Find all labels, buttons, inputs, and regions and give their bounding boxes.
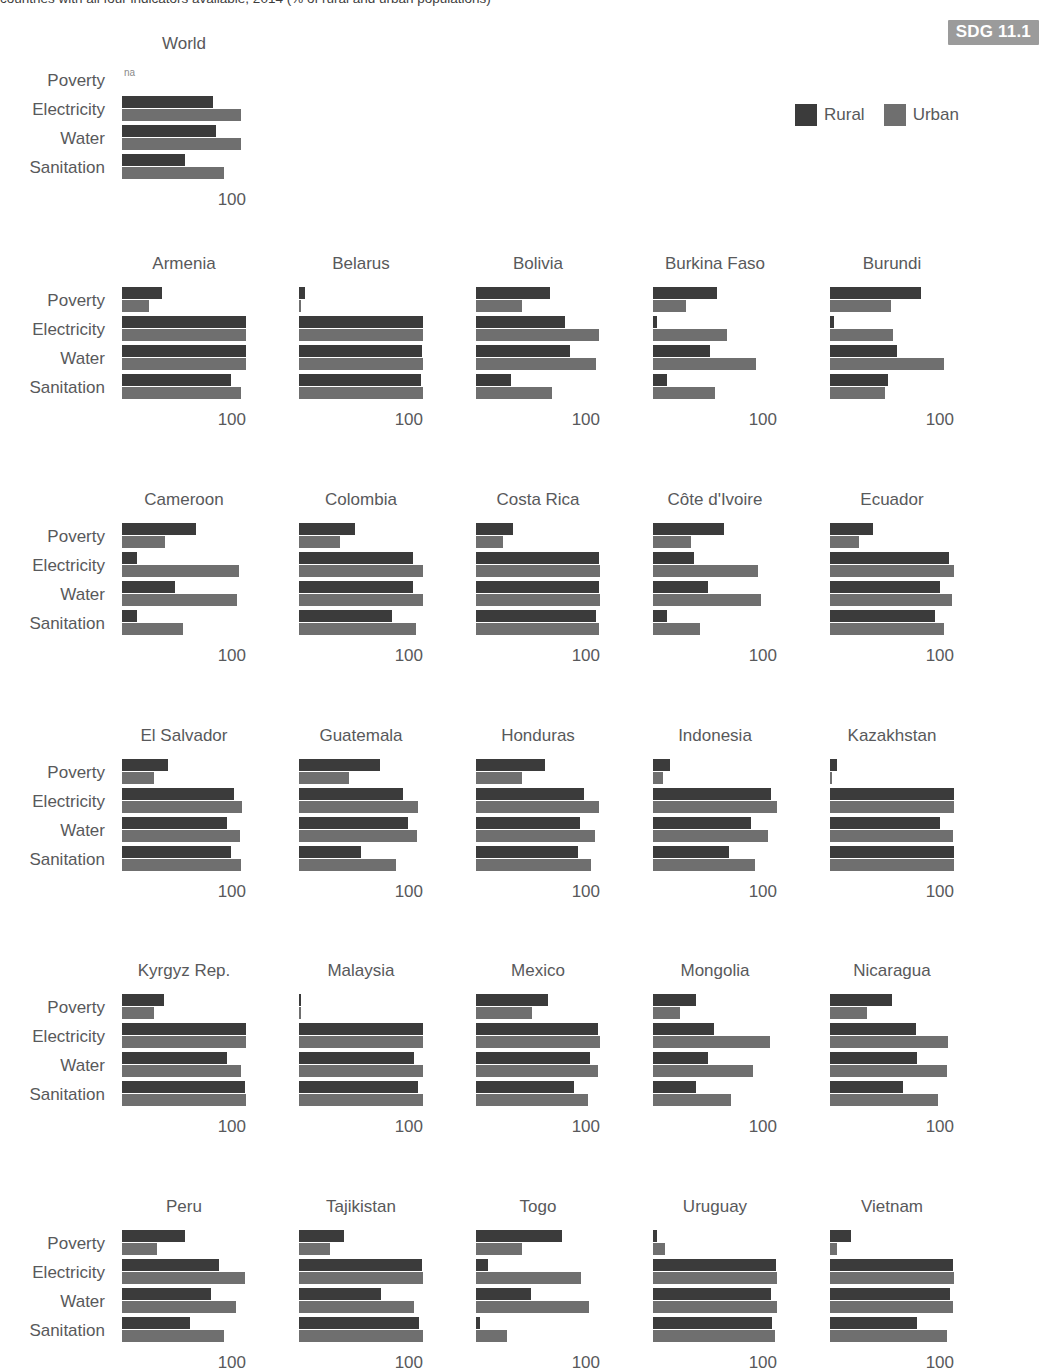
bar-rural-water xyxy=(830,581,940,593)
bar-group-electricity xyxy=(476,551,600,580)
panel-title-burundi: Burundi xyxy=(830,254,954,274)
bar-rural-poverty xyxy=(122,994,164,1006)
bar-group-water xyxy=(653,580,777,609)
bar-urban-water xyxy=(476,594,600,606)
bar-urban-poverty xyxy=(653,536,691,548)
panel-title-ecuador: Ecuador xyxy=(830,490,954,510)
bar-group-poverty xyxy=(476,1229,600,1258)
bar-urban-poverty xyxy=(122,1007,154,1019)
bar-rural-poverty xyxy=(653,994,696,1006)
bar-group-poverty xyxy=(653,522,777,551)
bar-group-electricity xyxy=(653,315,777,344)
bar-urban-water xyxy=(830,1301,953,1313)
axis-tick-100: 100 xyxy=(830,1117,954,1137)
axis-tick-100: 100 xyxy=(830,646,954,666)
na-marker: na xyxy=(124,67,135,78)
bar-urban-poverty xyxy=(653,772,663,784)
chart-legend: Rural Urban xyxy=(795,104,971,126)
indicator-label-poverty: Poverty xyxy=(0,522,105,551)
bar-rural-sanitation xyxy=(653,1081,696,1093)
bar-rural-water xyxy=(299,817,408,829)
bar-urban-electricity xyxy=(830,1272,954,1284)
bar-urban-water xyxy=(830,594,952,606)
bar-rural-sanitation xyxy=(122,1081,245,1093)
axis-tick-100: 100 xyxy=(122,190,246,210)
bar-urban-water xyxy=(299,594,423,606)
axis-tick-100: 100 xyxy=(299,410,423,430)
panel-title-cameroon: Cameroon xyxy=(122,490,246,510)
bar-rural-sanitation xyxy=(122,1317,190,1329)
bar-group-water xyxy=(122,344,246,373)
bar-rural-water xyxy=(476,1288,531,1300)
bar-rural-poverty xyxy=(476,994,548,1006)
bar-rural-water xyxy=(476,817,580,829)
bar-urban-sanitation xyxy=(830,859,954,871)
bar-group-poverty xyxy=(299,1229,423,1258)
indicator-label-poverty: Poverty xyxy=(0,758,105,787)
axis-tick-100: 100 xyxy=(476,1353,600,1371)
bar-rural-poverty xyxy=(830,759,837,771)
bar-rural-electricity xyxy=(299,316,423,328)
bar-group-electricity xyxy=(122,315,246,344)
bar-rural-sanitation xyxy=(653,846,729,858)
bar-rural-electricity xyxy=(653,1259,776,1271)
bar-urban-electricity xyxy=(653,1272,777,1284)
axis-tick-100: 100 xyxy=(122,646,246,666)
bar-rural-poverty xyxy=(299,287,305,299)
bar-urban-poverty xyxy=(299,300,301,312)
bar-rural-electricity xyxy=(476,1023,598,1035)
bar-group-poverty xyxy=(476,286,600,315)
bar-group-water xyxy=(299,344,423,373)
axis-tick-100: 100 xyxy=(299,1117,423,1137)
bar-group-water xyxy=(476,816,600,845)
bar-group-sanitation xyxy=(653,1080,777,1109)
bar-group-electricity xyxy=(476,315,600,344)
bar-rural-sanitation xyxy=(653,1317,772,1329)
bar-rural-electricity xyxy=(299,552,413,564)
bar-rural-water xyxy=(653,1288,771,1300)
bar-rural-poverty xyxy=(122,287,162,299)
bar-rural-sanitation xyxy=(830,846,954,858)
bar-group-water xyxy=(122,580,246,609)
indicator-label-sanitation: Sanitation xyxy=(0,153,105,182)
bar-rural-water xyxy=(476,581,599,593)
bar-urban-poverty xyxy=(653,1243,665,1255)
bar-rural-water xyxy=(830,1052,917,1064)
bar-rural-water xyxy=(299,345,422,357)
bar-rural-electricity xyxy=(122,96,213,108)
indicator-label-electricity: Electricity xyxy=(0,95,105,124)
bar-group-water xyxy=(299,580,423,609)
bar-group-sanitation xyxy=(830,373,954,402)
indicator-label-electricity: Electricity xyxy=(0,1022,105,1051)
bar-urban-electricity xyxy=(830,1036,948,1048)
axis-tick-100: 100 xyxy=(830,882,954,902)
bar-group-sanitation xyxy=(830,1080,954,1109)
bar-group-poverty xyxy=(830,758,954,787)
bar-group-poverty xyxy=(122,1229,246,1258)
legend-swatch-rural xyxy=(795,104,817,126)
bar-group-sanitation xyxy=(122,373,246,402)
bar-group-sanitation xyxy=(476,1316,600,1345)
indicator-label-poverty: Poverty xyxy=(0,66,105,95)
bar-group-electricity xyxy=(122,1258,246,1287)
panel-title-tajikistan: Tajikistan xyxy=(299,1197,423,1217)
axis-tick-100: 100 xyxy=(653,1117,777,1137)
bar-rural-electricity xyxy=(299,788,403,800)
bar-group-poverty xyxy=(830,286,954,315)
bar-urban-sanitation xyxy=(476,623,599,635)
bar-rural-water xyxy=(476,1052,590,1064)
panel-title-peru: Peru xyxy=(122,1197,246,1217)
bar-rural-electricity xyxy=(122,1023,246,1035)
bar-group-electricity xyxy=(299,1022,423,1051)
axis-tick-100: 100 xyxy=(830,1353,954,1371)
bar-group-poverty xyxy=(830,993,954,1022)
bar-urban-poverty xyxy=(476,1007,532,1019)
bar-group-poverty xyxy=(653,758,777,787)
bar-rural-poverty xyxy=(122,1230,185,1242)
bar-group-water xyxy=(830,1287,954,1316)
bar-urban-poverty xyxy=(122,1243,157,1255)
bar-urban-electricity xyxy=(122,801,242,813)
axis-tick-100: 100 xyxy=(476,882,600,902)
bar-group-poverty xyxy=(653,1229,777,1258)
bar-rural-electricity xyxy=(476,788,584,800)
